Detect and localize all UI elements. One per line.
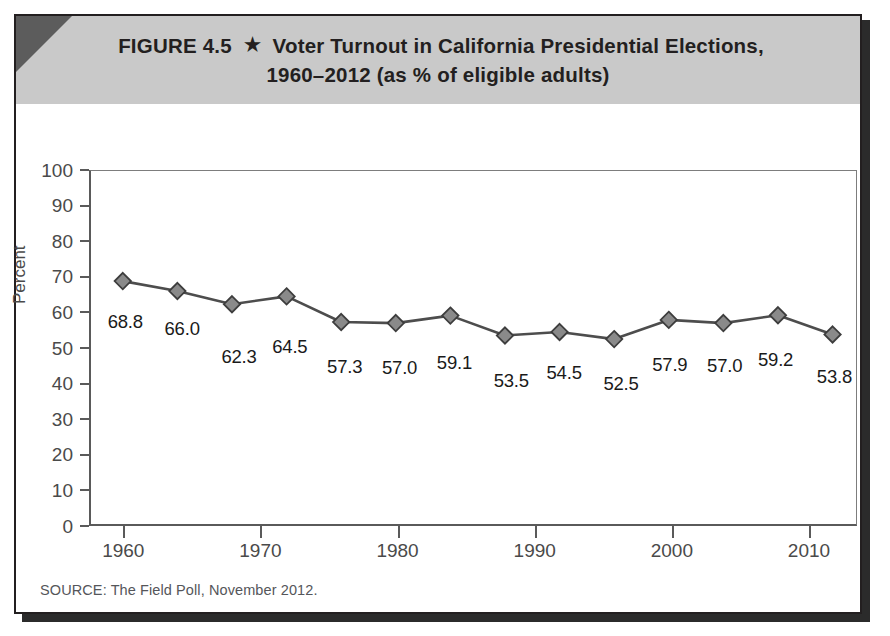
- data-point-marker: [115, 273, 131, 289]
- data-point-marker: [333, 314, 349, 330]
- data-point-marker: [278, 288, 294, 304]
- data-point-marker: [715, 315, 731, 331]
- data-point-label: 59.2: [758, 349, 793, 371]
- figure-title-line-2: 1960–2012 (as % of eligible adults): [266, 60, 609, 89]
- data-point-label: 53.8: [817, 366, 852, 388]
- data-point-marker: [661, 312, 677, 328]
- series-markers: [115, 273, 841, 347]
- data-point-label: 66.0: [165, 318, 200, 340]
- data-point-marker: [224, 296, 240, 312]
- data-point-label: 57.0: [382, 357, 417, 379]
- data-point-marker: [824, 326, 840, 342]
- data-point-label: 59.1: [437, 352, 472, 374]
- data-point-marker: [169, 283, 185, 299]
- data-point-label: 68.8: [108, 311, 143, 333]
- figure-title: FIGURE 4.5 ★ Voter Turnout in California…: [16, 16, 860, 104]
- data-point-label: 62.3: [221, 346, 256, 368]
- data-point-marker: [551, 324, 567, 340]
- data-point-label: 54.5: [547, 362, 582, 384]
- card-shadow-right: [862, 20, 870, 620]
- figure-card: FIGURE 4.5 ★ Voter Turnout in California…: [14, 14, 862, 614]
- star-icon: ★: [244, 35, 261, 54]
- data-point-label: 57.9: [652, 354, 687, 376]
- card-shadow-bottom: [22, 614, 870, 622]
- series-line-chart: [16, 104, 860, 564]
- plot-area: Percent 0102030405060708090100 196019701…: [16, 104, 860, 564]
- data-point-label: 53.5: [494, 370, 529, 392]
- data-point-label: 57.3: [327, 356, 362, 378]
- data-point-marker: [606, 331, 622, 347]
- data-point-label: 64.5: [272, 336, 307, 358]
- figure-title-line-1: FIGURE 4.5 ★ Voter Turnout in California…: [112, 31, 764, 60]
- data-point-label: 52.5: [603, 373, 638, 395]
- data-point-marker: [442, 307, 458, 323]
- data-point-marker: [497, 327, 513, 343]
- figure-title-main: Voter Turnout in California Presidential…: [273, 31, 764, 60]
- source-note: SOURCE: The Field Poll, November 2012.: [40, 582, 318, 598]
- data-point-label: 57.0: [707, 355, 742, 377]
- figure-number-label: FIGURE 4.5: [118, 31, 232, 60]
- data-point-marker: [770, 307, 786, 323]
- data-point-marker: [388, 315, 404, 331]
